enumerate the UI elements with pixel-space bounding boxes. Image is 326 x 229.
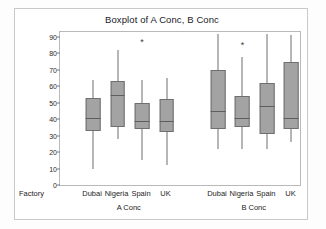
box-iqr (284, 62, 299, 129)
category-label-spain-b: Spain (256, 189, 275, 198)
box-iqr (110, 81, 125, 127)
box-iqr (86, 98, 101, 131)
y-tick-label: 60 (49, 83, 57, 90)
whisker-lower (93, 131, 94, 169)
group-label-a-conc: A Conc (117, 203, 141, 212)
whisker-upper (166, 78, 167, 99)
category-label-dubai-b: Dubai (207, 189, 227, 198)
y-tick-mark (57, 86, 60, 87)
y-tick-mark (57, 185, 60, 186)
whisker-lower (242, 127, 243, 148)
category-label-nigeria-a: Nigeria (105, 189, 129, 198)
group-axis: A ConcB Conc (59, 203, 301, 215)
whisker-upper (242, 57, 243, 96)
whisker-lower (142, 129, 143, 160)
box-iqr (235, 96, 250, 127)
y-tick-mark (57, 102, 60, 103)
y-tick-mark (57, 135, 60, 136)
whisker-upper (93, 80, 94, 98)
category-label-dubai-a: Dubai (82, 189, 102, 198)
y-tick-label: 0 (53, 182, 57, 189)
median-line (86, 118, 101, 119)
category-label-uk-a: UK (160, 189, 170, 198)
group-label-b-conc: B Conc (241, 203, 266, 212)
y-tick-label: 10 (49, 165, 57, 172)
factory-axis-label: Factory (19, 189, 44, 198)
whisker-upper (266, 34, 267, 83)
box-plot-item (284, 32, 299, 185)
whisker-upper (291, 35, 292, 61)
median-line (235, 118, 250, 119)
box-iqr (159, 99, 174, 132)
y-tick-mark (57, 36, 60, 37)
whisker-lower (217, 129, 218, 149)
box-iqr (211, 70, 226, 129)
outlier-marker: * (140, 37, 144, 46)
whisker-upper (217, 34, 218, 70)
median-line (284, 118, 299, 119)
whisker-lower (166, 132, 167, 165)
y-tick-mark (57, 168, 60, 169)
box-iqr (260, 83, 275, 134)
y-tick-label: 90 (49, 33, 57, 40)
y-tick-mark (57, 69, 60, 70)
whisker-lower (291, 129, 292, 142)
box-plot-item: * (235, 32, 250, 185)
median-line (159, 121, 174, 122)
boxplot-figure: Boxplot of A Conc, B Conc 01020304050607… (0, 0, 326, 229)
median-line (110, 95, 125, 96)
whisker-lower (266, 134, 267, 149)
y-tick-label: 50 (49, 99, 57, 106)
outlier-marker: * (241, 41, 245, 50)
box-iqr (135, 103, 150, 129)
figure-frame: Boxplot of A Conc, B Conc 01020304050607… (14, 8, 308, 220)
plot-panel: 0102030405060708090 ** (59, 31, 301, 186)
category-label-nigeria-b: Nigeria (230, 189, 254, 198)
y-tick-mark (57, 53, 60, 54)
category-label-spain-a: Spain (131, 189, 150, 198)
median-line (135, 121, 150, 122)
box-plot-item (211, 32, 226, 185)
median-line (211, 111, 226, 112)
category-label-uk-b: UK (285, 189, 295, 198)
y-tick-mark (57, 119, 60, 120)
whisker-upper (142, 80, 143, 103)
category-axis: DubaiNigeriaSpainUKDubaiNigeriaSpainUK (59, 189, 301, 201)
y-tick-label: 70 (49, 66, 57, 73)
chart-title: Boxplot of A Conc, B Conc (15, 14, 309, 25)
box-plot-item: * (135, 32, 150, 185)
whisker-lower (117, 127, 118, 139)
y-tick-label: 20 (49, 149, 57, 156)
box-plot-item (86, 32, 101, 185)
y-tick-label: 80 (49, 50, 57, 57)
box-plot-item (260, 32, 275, 185)
y-tick-label: 30 (49, 132, 57, 139)
median-line (260, 106, 275, 107)
y-tick-mark (57, 152, 60, 153)
box-plot-item (110, 32, 125, 185)
y-tick-label: 40 (49, 116, 57, 123)
box-plot-item (159, 32, 174, 185)
whisker-upper (117, 50, 118, 81)
